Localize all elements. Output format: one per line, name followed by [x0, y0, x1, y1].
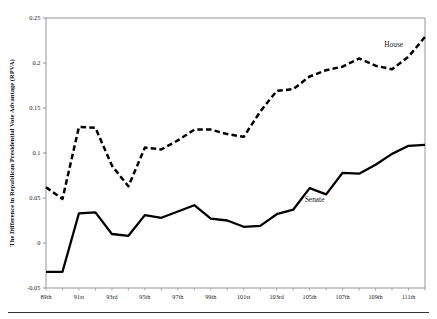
figure-container: 0.250.20.150.10.050-0.05The Difference i… [0, 0, 437, 319]
y-axis-tick-label: 0 [37, 239, 40, 246]
x-axis-tick-label: 89th [40, 293, 52, 300]
plot-area-frame [46, 18, 425, 288]
x-axis-tick-label: 97th [172, 293, 184, 300]
x-axis-tick-label: 93rd [106, 293, 118, 300]
y-axis-tick-label: 0.05 [29, 194, 40, 201]
x-axis-tick-label: 111th [402, 293, 417, 300]
chart-canvas: 0.250.20.150.10.050-0.05The Difference i… [0, 0, 437, 319]
x-axis-tick-label: 101st [237, 293, 251, 300]
y-axis-tick-label: 0.1 [33, 149, 41, 156]
x-axis-tick-label: 103rd [269, 293, 284, 300]
y-axis-tick-label: 0.15 [29, 104, 40, 111]
y-axis-tick-label: 0.25 [29, 14, 40, 21]
x-axis-tick-label: 91st [74, 293, 85, 300]
series-label-senate: Senate [305, 195, 325, 204]
y-axis-tick-label: 0.2 [33, 59, 41, 66]
x-axis-tick-label: 107th [336, 293, 351, 300]
x-axis-tick-label: 109th [369, 293, 384, 300]
series-label-house: House [384, 40, 404, 49]
x-axis-tick-label: 95th [139, 293, 151, 300]
y-axis-title: The Difference in Republican Presidentia… [8, 59, 16, 246]
y-axis-tick-label: -0.05 [27, 284, 40, 291]
x-axis-tick-label: 105th [303, 293, 318, 300]
bottom-divider-rule [8, 312, 429, 313]
x-axis-tick-label: 99th [205, 293, 217, 300]
